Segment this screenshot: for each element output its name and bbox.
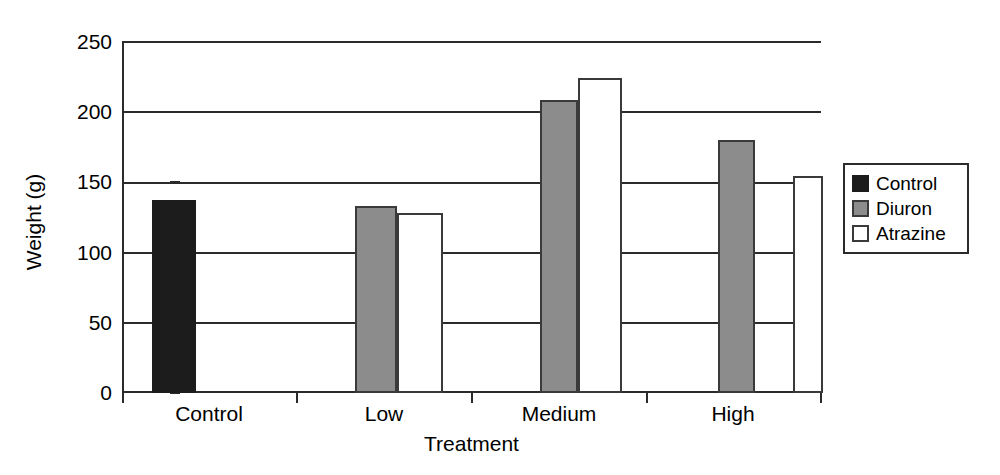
bar-low-diuron: [355, 206, 397, 393]
x-tick-label-high: High: [663, 402, 803, 426]
legend-item-atrazine: Atrazine: [852, 221, 960, 246]
gridline-250: [122, 41, 821, 43]
x-tick-mark-medium-high: [646, 393, 648, 403]
gridline-100: [122, 252, 821, 254]
y-tick-label-100: 100: [77, 242, 112, 263]
plot-area: [122, 41, 821, 393]
gridline-50: [122, 322, 821, 324]
bar-medium-diuron: [540, 100, 578, 393]
x-axis-title: Treatment: [122, 432, 821, 456]
black-square-icon: [852, 175, 869, 192]
gray-square-icon: [852, 200, 869, 217]
y-tick-label-250: 250: [77, 31, 112, 52]
legend-label-diuron: Diuron: [876, 199, 932, 218]
y-axis-line: [122, 41, 124, 393]
y-tick-label-150: 150: [77, 171, 112, 192]
y-tick-label-200: 200: [77, 101, 112, 122]
gridline-150: [122, 182, 821, 184]
bar-chart-figure: 250 200 150 100 50 0 Weight (g): [0, 0, 1000, 475]
legend-item-diuron: Diuron: [852, 196, 960, 221]
chart-legend: Control Diuron Atrazine: [843, 163, 969, 254]
y-tick-label-0: 0: [100, 382, 112, 403]
bar-low-atrazine: [397, 213, 443, 393]
white-square-icon: [852, 225, 869, 242]
legend-label-control: Control: [876, 174, 937, 193]
x-tick-mark-control-low: [296, 393, 298, 403]
x-tick-mark-right-edge: [820, 393, 822, 403]
legend-label-atrazine: Atrazine: [876, 224, 946, 243]
y-axis-tick-labels: 250 200 150 100 50 0: [58, 0, 112, 475]
x-tick-mark-left-edge: [122, 393, 124, 403]
bar-medium-atrazine: [578, 78, 622, 393]
bar-high-diuron: [718, 140, 755, 393]
x-tick-label-control: Control: [139, 402, 279, 426]
legend-item-control: Control: [852, 171, 960, 196]
bar-control-control: [152, 200, 196, 393]
x-tick-mark-low-medium: [471, 393, 473, 403]
x-tick-label-medium: Medium: [489, 402, 629, 426]
y-axis-title: Weight (g): [22, 162, 46, 282]
x-tick-label-low: Low: [314, 402, 454, 426]
y-tick-label-50: 50: [89, 312, 112, 333]
bar-high-atrazine: [793, 176, 823, 393]
gridline-200: [122, 111, 821, 113]
